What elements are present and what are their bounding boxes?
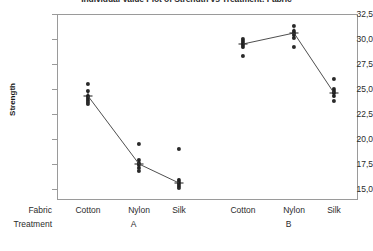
plot-frame (57, 14, 358, 200)
individual-value-plot: Individual Value Plot of Strength vs Tre… (0, 0, 373, 251)
y-tick-mark (52, 64, 57, 65)
y-tick-label: 17,5 (321, 159, 373, 169)
y-tick-mark (52, 39, 57, 40)
x-axis-row-header: Treatment (0, 219, 52, 229)
group-mean-marker (290, 29, 299, 38)
chart-title: Individual Value Plot of Strength vs Tre… (0, 0, 373, 2)
y-tick-label: 32,5 (321, 9, 373, 19)
y-tick-mark (52, 189, 57, 190)
group-mean-marker (175, 179, 184, 188)
y-tick-label: 15,0 (321, 184, 373, 194)
y-tick-mark (52, 139, 57, 140)
y-tick-label: 27,5 (321, 59, 373, 69)
y-tick-label: 30,0 (321, 34, 373, 44)
x-axis-row-header: Fabric (0, 205, 52, 215)
x-group-label: B (286, 219, 292, 229)
group-mean-marker (84, 92, 93, 101)
group-mean-marker (330, 89, 339, 98)
x-category-label: Nylon (128, 205, 150, 215)
y-tick-mark (52, 89, 57, 90)
y-tick-mark (52, 14, 57, 15)
x-category-label: Nylon (283, 205, 305, 215)
x-category-label: Silk (172, 205, 186, 215)
x-group-label: A (131, 219, 137, 229)
x-category-label: Cotton (75, 205, 100, 215)
y-tick-mark (52, 164, 57, 165)
x-category-label: Cotton (230, 205, 255, 215)
y-tick-label: 22,5 (321, 109, 373, 119)
y-tick-mark (52, 114, 57, 115)
group-mean-marker (135, 160, 144, 169)
x-category-label: Silk (327, 205, 341, 215)
y-axis-title: Strength (8, 65, 17, 135)
y-tick-label: 20,0 (321, 134, 373, 144)
group-mean-marker (239, 40, 248, 49)
